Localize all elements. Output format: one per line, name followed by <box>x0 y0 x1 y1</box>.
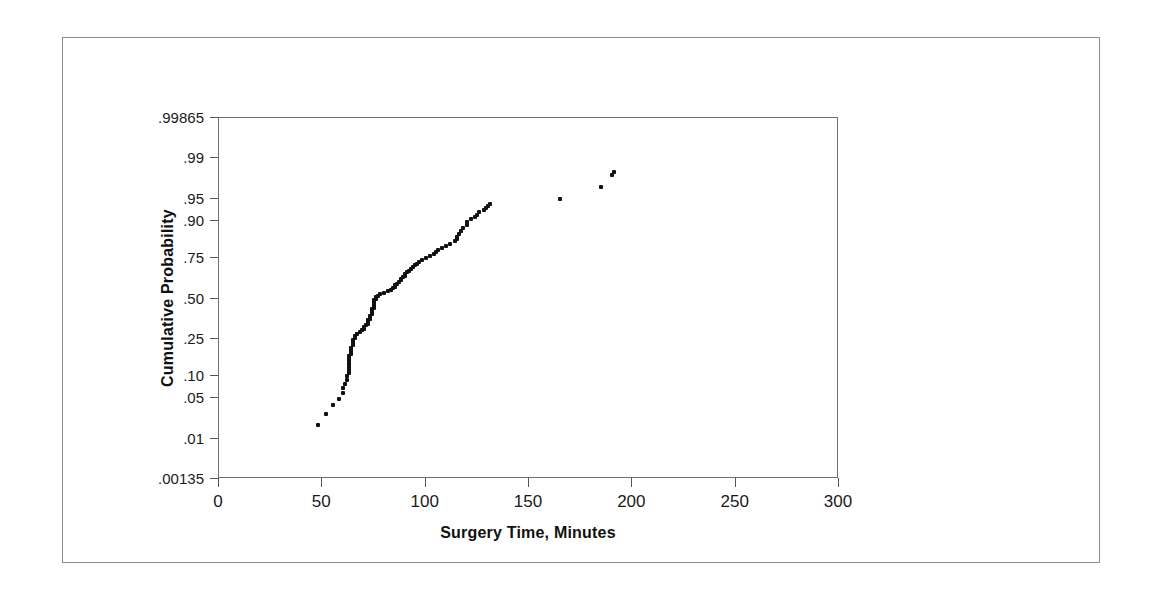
data-point <box>461 226 465 230</box>
x-axis-tick <box>838 478 839 487</box>
data-point <box>349 348 353 352</box>
data-point <box>434 250 438 254</box>
data-point <box>395 282 399 286</box>
data-point <box>459 229 463 233</box>
y-axis-title: Cumulative Probability <box>159 209 177 387</box>
data-point <box>407 269 411 273</box>
x-axis-tick <box>528 478 529 487</box>
data-point <box>372 303 376 307</box>
data-point <box>482 208 486 212</box>
data-point <box>399 278 403 282</box>
data-point <box>415 262 419 266</box>
data-point <box>374 295 378 299</box>
data-point <box>372 300 376 304</box>
data-point <box>345 374 349 378</box>
data-point <box>405 270 409 274</box>
data-point <box>403 272 407 276</box>
data-point <box>399 277 403 281</box>
data-point <box>370 307 374 311</box>
figure-page: 050100150200250300 .00135.01.05.10.25.50… <box>0 0 1161 600</box>
data-point <box>455 235 459 239</box>
y-axis-tick-label: .99 <box>134 149 204 166</box>
data-point <box>366 320 370 324</box>
data-point <box>484 206 488 210</box>
data-point <box>353 334 357 338</box>
data-point <box>436 248 440 252</box>
y-axis-tick <box>210 338 218 339</box>
x-axis-title: Surgery Time, Minutes <box>218 524 838 542</box>
data-point <box>364 323 368 327</box>
data-point <box>366 318 370 322</box>
x-axis-tick <box>425 478 426 487</box>
data-point <box>353 336 357 340</box>
data-point <box>370 311 374 315</box>
y-axis-tick <box>210 438 218 439</box>
data-point <box>473 215 477 219</box>
data-point <box>362 325 366 329</box>
data-point <box>349 352 353 356</box>
data-point <box>324 412 328 416</box>
x-axis-tick-label: 150 <box>488 492 568 512</box>
data-point <box>347 357 351 361</box>
data-point <box>370 309 374 313</box>
data-point <box>391 286 395 290</box>
data-point <box>343 382 347 386</box>
x-axis-tick <box>631 478 632 487</box>
data-point <box>351 341 355 345</box>
data-point <box>347 359 351 363</box>
data-point <box>374 297 378 301</box>
data-point <box>347 362 351 366</box>
data-point <box>382 291 386 295</box>
data-point <box>612 170 616 174</box>
data-point <box>347 365 351 369</box>
y-axis-tick-label: .95 <box>134 190 204 207</box>
data-point <box>457 232 461 236</box>
data-point <box>347 368 351 372</box>
data-point <box>469 217 473 221</box>
y-axis-tick <box>210 257 218 258</box>
y-axis-tick <box>210 397 218 398</box>
data-point <box>347 371 351 375</box>
y-axis-tick <box>210 478 218 479</box>
data-point <box>351 338 355 342</box>
data-point <box>372 306 376 310</box>
data-point <box>610 173 614 177</box>
data-point <box>417 260 421 264</box>
data-point <box>337 397 341 401</box>
data-point <box>401 275 405 279</box>
data-point <box>358 330 362 334</box>
x-axis-tick <box>218 478 219 487</box>
data-point <box>420 258 424 262</box>
y-axis-tick-label: .05 <box>134 388 204 405</box>
data-point <box>360 328 364 332</box>
data-point <box>355 332 359 336</box>
x-axis-tick-label: 300 <box>798 492 878 512</box>
data-point <box>440 246 444 250</box>
data-point <box>368 314 372 318</box>
data-point <box>393 285 397 289</box>
data-point <box>448 242 452 246</box>
data-point <box>393 283 397 287</box>
x-axis-tick-label: 200 <box>591 492 671 512</box>
data-point <box>475 213 479 217</box>
data-point <box>316 423 320 427</box>
x-axis-tick-label: 50 <box>281 492 361 512</box>
data-point <box>378 292 382 296</box>
data-point <box>411 265 415 269</box>
y-axis-tick-label: .01 <box>134 429 204 446</box>
data-point <box>424 256 428 260</box>
y-axis-tick <box>210 220 218 221</box>
y-axis-tick <box>210 375 218 376</box>
data-point <box>465 220 469 224</box>
data-point <box>366 322 370 326</box>
data-point <box>372 298 376 302</box>
data-point <box>331 403 335 407</box>
data-point <box>477 210 481 214</box>
data-point <box>455 237 459 241</box>
data-point <box>347 354 351 358</box>
data-point <box>386 289 390 293</box>
data-point <box>488 202 492 206</box>
data-point <box>599 185 603 189</box>
y-axis-tick-label: .99865 <box>134 109 204 126</box>
data-point <box>349 346 353 350</box>
